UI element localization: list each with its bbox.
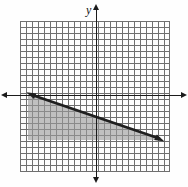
y-axis-label: y <box>86 4 91 16</box>
x-axis-left-arrow-icon <box>1 92 7 98</box>
x-axis-right-arrow-icon <box>181 92 187 98</box>
y-axis-top-arrow-icon <box>93 4 99 10</box>
graph-grid <box>20 21 170 172</box>
coordinate-plane-figure: y <box>0 0 188 187</box>
x-axis <box>4 95 184 96</box>
y-axis-bottom-arrow-icon <box>93 177 99 183</box>
y-axis <box>96 7 97 180</box>
